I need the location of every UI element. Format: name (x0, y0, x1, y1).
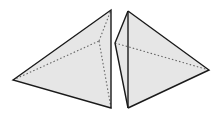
pyramids-diagram (0, 0, 223, 119)
right-pyramid-front-face (128, 11, 209, 108)
right-pyramid (115, 11, 209, 108)
diagram-canvas (0, 0, 223, 119)
left-pyramid (13, 10, 111, 108)
